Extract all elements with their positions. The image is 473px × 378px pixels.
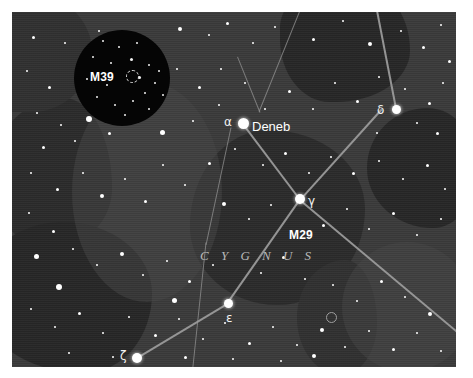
field-star (368, 228, 370, 230)
field-star (100, 194, 104, 198)
star-gamma-cygni[interactable] (295, 194, 305, 204)
field-star (162, 164, 164, 166)
dark-nebula-region (367, 108, 456, 228)
star-epsilon-cygni[interactable] (224, 299, 233, 308)
field-star (96, 264, 98, 266)
field-star (128, 316, 130, 318)
field-star (226, 22, 229, 25)
inset-star (114, 104, 116, 106)
field-star (30, 308, 32, 310)
field-star (208, 162, 211, 165)
field-star (448, 60, 451, 63)
field-star (312, 38, 315, 41)
label-m29: M29 (289, 229, 313, 241)
field-star (34, 254, 39, 259)
label-m39: M39 (90, 71, 114, 83)
star-zeta-cygni[interactable] (132, 353, 142, 363)
field-star (270, 204, 272, 206)
field-star (284, 152, 287, 155)
field-star (30, 172, 32, 174)
field-star (320, 328, 324, 332)
inset-star (124, 114, 126, 116)
field-star (188, 280, 191, 283)
field-star (112, 356, 114, 358)
inset-star (130, 58, 133, 61)
field-star (48, 86, 51, 89)
field-star (208, 34, 210, 36)
field-star (160, 130, 165, 135)
inset-star (132, 100, 134, 102)
field-star (344, 346, 346, 348)
field-star (368, 330, 370, 332)
field-star (426, 164, 429, 167)
star-deneb[interactable] (238, 118, 249, 129)
field-star (422, 46, 425, 49)
field-star (346, 208, 348, 210)
inset-star (162, 94, 164, 96)
field-star (416, 332, 418, 334)
inset-star (102, 40, 104, 42)
field-star (392, 212, 395, 215)
field-star (142, 274, 144, 276)
field-star (232, 358, 234, 360)
label-zeta: ζ (120, 350, 127, 362)
star-delta-cygni[interactable] (392, 105, 401, 114)
field-star (218, 104, 220, 106)
field-star (378, 76, 380, 78)
label-alpha: α (224, 116, 232, 128)
field-star (264, 108, 266, 110)
field-star (252, 42, 254, 44)
field-star (178, 27, 182, 31)
field-star (312, 108, 314, 110)
star-field-plate: α Deneb γ δ ε ζ M29 C Y G N U S (12, 12, 456, 367)
field-star (428, 312, 432, 316)
field-star (192, 120, 194, 122)
field-star (342, 20, 344, 22)
field-star (98, 30, 100, 32)
field-star (74, 140, 76, 142)
inset-star (136, 42, 138, 44)
field-star (378, 160, 380, 162)
inset-star (144, 92, 146, 94)
field-star (72, 248, 74, 250)
field-star (222, 202, 226, 206)
field-star (102, 332, 104, 334)
field-star (356, 100, 359, 103)
open-cluster-marker (326, 312, 337, 323)
field-star (404, 88, 406, 90)
field-star (312, 354, 316, 358)
field-star (172, 298, 177, 303)
field-star (60, 124, 62, 126)
m39-magnified-inset[interactable]: M39 (74, 30, 170, 126)
field-star (368, 42, 372, 46)
field-star (262, 164, 264, 166)
bright-milkyway-band (342, 242, 456, 367)
field-star (184, 184, 186, 186)
field-star (42, 146, 45, 149)
field-star (392, 348, 395, 351)
field-star (220, 68, 222, 70)
field-star (178, 318, 180, 320)
label-gamma: γ (308, 195, 315, 207)
star-chart-page: α Deneb γ δ ε ζ M29 C Y G N U S (0, 0, 473, 378)
field-star (176, 68, 178, 70)
field-star (202, 338, 204, 340)
field-star (272, 326, 274, 328)
field-star (308, 172, 310, 174)
field-star (78, 312, 81, 315)
field-star (32, 36, 35, 39)
field-star (234, 148, 236, 150)
field-star (332, 284, 334, 286)
field-star (288, 90, 291, 93)
inset-star (148, 108, 150, 110)
field-star (64, 42, 66, 44)
field-star (428, 102, 431, 105)
field-star (120, 252, 124, 256)
field-star (274, 26, 276, 28)
field-star (198, 86, 201, 89)
label-deneb: Deneb (252, 120, 290, 133)
field-star (380, 280, 383, 283)
field-star (244, 82, 246, 84)
open-cluster-symbol-icon (126, 70, 139, 83)
field-star (166, 260, 168, 262)
